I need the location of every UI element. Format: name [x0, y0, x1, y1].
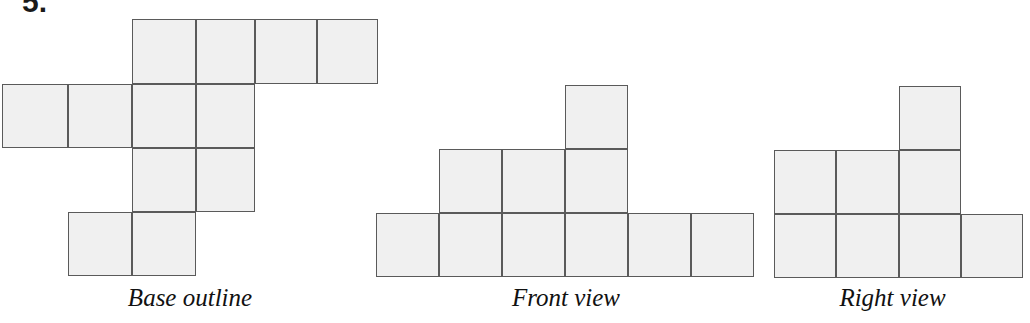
figure-label-right-view: Right view: [760, 285, 1025, 310]
grid-square: [132, 212, 196, 276]
grid-square: [836, 150, 899, 214]
grid-square: [502, 213, 565, 277]
figure-label-front-view: Front view: [376, 285, 756, 310]
grid-square: [132, 84, 196, 148]
grid-square: [502, 149, 565, 213]
grid-square: [68, 84, 132, 148]
grid-square: [565, 213, 628, 277]
grid-square: [565, 149, 628, 213]
problem-number: 5.: [22, 0, 47, 17]
grid-square: [899, 214, 961, 278]
grid-square: [439, 149, 502, 213]
grid-square: [317, 19, 378, 84]
grid-square: [565, 85, 628, 149]
grid-square: [628, 213, 691, 277]
grid-square: [255, 19, 317, 84]
grid-square: [376, 213, 439, 277]
grid-square: [774, 150, 836, 214]
grid-square: [961, 214, 1023, 278]
worksheet-figure-panel: 5. Base outline Front view Right view: [0, 0, 1030, 323]
grid-square: [836, 214, 899, 278]
grid-square: [899, 86, 961, 150]
grid-square: [68, 212, 132, 276]
figure-label-base-outline: Base outline: [0, 285, 380, 310]
grid-square: [774, 214, 836, 278]
grid-square: [196, 19, 255, 84]
grid-square: [2, 84, 68, 148]
grid-square: [196, 148, 255, 212]
grid-square: [132, 148, 196, 212]
grid-square: [691, 213, 754, 277]
grid-square: [439, 213, 502, 277]
grid-square: [196, 84, 255, 148]
grid-square: [132, 19, 196, 84]
grid-square: [899, 150, 961, 214]
